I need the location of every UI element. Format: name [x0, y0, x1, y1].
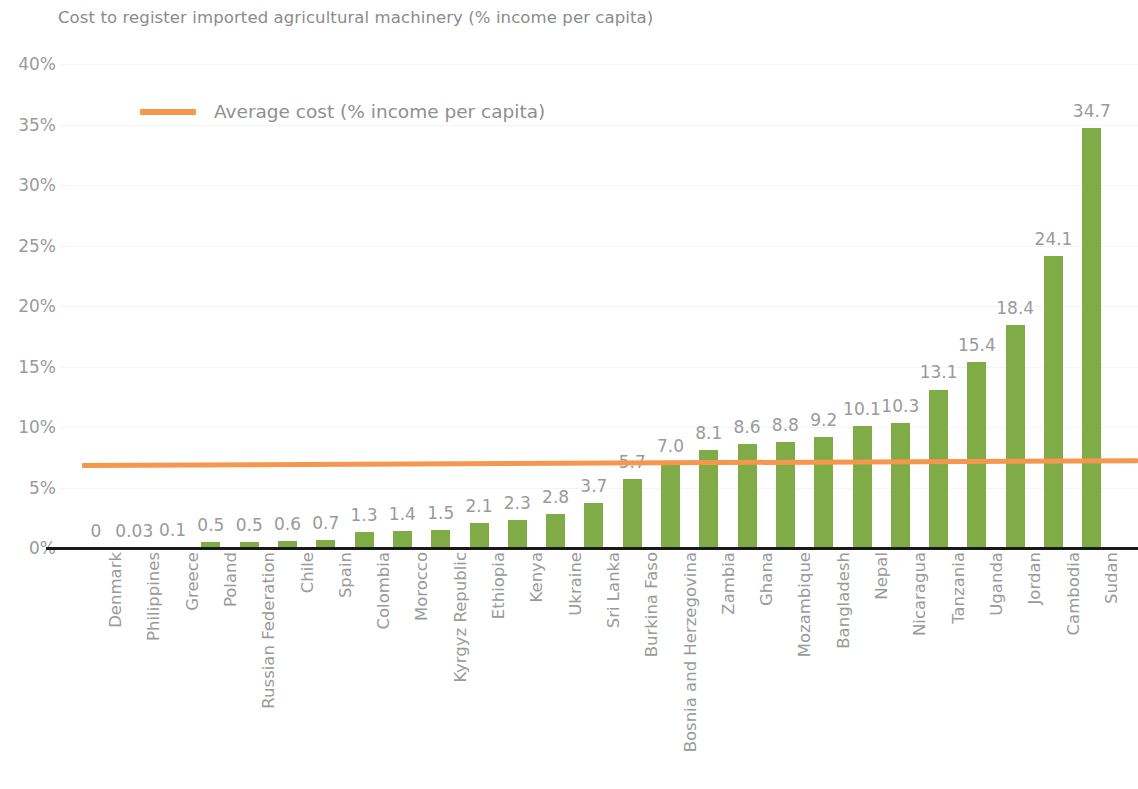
x-axis-category-label[interactable]: Uganda [983, 552, 1000, 616]
x-axis-category-label[interactable]: Jordan [1021, 552, 1038, 605]
bar-value-label: 24.1 [1035, 229, 1073, 249]
chart-legend: Average cost (% income per capita) [140, 101, 545, 122]
bar[interactable] [776, 442, 795, 548]
x-axis-category-label[interactable]: Sri Lanka [600, 552, 617, 628]
x-axis-label-text: Russian Federation [261, 552, 278, 709]
x-axis-label-text: Ghana [759, 552, 776, 606]
bar-value-label: 13.1 [920, 362, 958, 382]
bar-value-label: 2.8 [542, 487, 569, 507]
x-axis-label-text: Cambodia [1066, 552, 1083, 635]
x-axis-category-label[interactable]: Russian Federation [255, 552, 272, 709]
bar-value-label: 0.1 [159, 520, 186, 540]
x-axis-category-label[interactable]: Kyrgyz Republic [447, 552, 464, 683]
bar-value-label: 18.4 [996, 298, 1034, 318]
bar-value-label: 0 [91, 521, 102, 541]
bar[interactable] [853, 426, 872, 548]
x-axis-category-label[interactable]: Colombia [370, 552, 387, 630]
x-axis-label-text: Mozambique [797, 552, 814, 657]
x-axis-category-label[interactable]: Morocco [408, 552, 425, 621]
x-axis-category-label[interactable]: Sudan [1098, 552, 1115, 604]
bar-value-label: 0.5 [197, 515, 224, 535]
legend-item-label: Average cost (% income per capita) [214, 101, 545, 122]
x-axis-label-text: Ethiopia [491, 552, 508, 619]
x-axis-category-label[interactable]: Cambodia [1060, 552, 1077, 635]
bar[interactable] [355, 532, 374, 548]
x-axis-label-text: Denmark [108, 552, 125, 628]
x-axis-label-text: Morocco [414, 552, 431, 621]
x-axis-label-text: Poland [223, 552, 240, 607]
x-axis-label-text: Sudan [1104, 552, 1121, 604]
x-axis-label-text: Chile [300, 552, 317, 593]
bar-value-label: 1.5 [427, 503, 454, 523]
bar[interactable] [967, 362, 986, 548]
x-axis-category-label[interactable]: Philippines [140, 552, 157, 641]
bar[interactable] [1006, 325, 1025, 548]
x-axis-category-label[interactable]: Chile [294, 552, 311, 593]
x-axis-label-text: Kyrgyz Republic [453, 552, 470, 683]
bar[interactable] [470, 523, 489, 548]
x-axis-baseline [46, 547, 1138, 550]
x-axis-label-text: Philippines [146, 552, 163, 641]
average-line-swatch-icon [140, 109, 196, 115]
x-axis-category-labels: DenmarkPhilippinesGreecePolandRussian Fe… [0, 552, 1138, 789]
bar-value-label: 0.7 [312, 513, 339, 533]
bar-value-label: 1.4 [389, 504, 416, 524]
x-axis-label-text: Bangladesh [836, 552, 853, 649]
x-axis-category-label[interactable]: Ghana [753, 552, 770, 606]
bar[interactable] [393, 531, 412, 548]
x-axis-label-text: Spain [338, 552, 355, 598]
bar[interactable] [1044, 256, 1063, 548]
x-axis-category-label[interactable]: Spain [332, 552, 349, 598]
x-axis-label-text: Jordan [1027, 552, 1044, 605]
x-axis-label-text: Sri Lanka [606, 552, 623, 628]
bar-value-label: 2.3 [504, 493, 531, 513]
bar-value-label: 8.8 [772, 415, 799, 435]
bar-value-label: 0.6 [274, 514, 301, 534]
x-axis-label-text: Ukraine [568, 552, 585, 616]
chart-container: Cost to register imported agricultural m… [0, 0, 1138, 789]
x-axis-category-label[interactable]: Nicaragua [906, 552, 923, 636]
x-axis-category-label[interactable]: Greece [179, 552, 196, 611]
x-axis-label-text: Zambia [721, 552, 738, 615]
bar[interactable] [929, 390, 948, 549]
x-axis-category-label[interactable]: Mozambique [791, 552, 808, 657]
x-axis-label-text: Colombia [376, 552, 393, 630]
bar-value-label: 10.3 [881, 396, 919, 416]
bar-value-label: 34.7 [1073, 101, 1111, 121]
x-axis-category-label[interactable]: Kenya [523, 552, 540, 602]
x-axis-label-text: Tanzania [951, 552, 968, 624]
x-axis-category-label[interactable]: Nepal [868, 552, 885, 600]
bar[interactable] [584, 503, 603, 548]
x-axis-category-label[interactable]: Zambia [715, 552, 732, 615]
bar[interactable] [623, 479, 642, 548]
x-axis-label-text: Nicaragua [912, 552, 929, 636]
bar-value-label: 15.4 [958, 335, 996, 355]
x-axis-label-text: Nepal [874, 552, 891, 600]
bar[interactable] [814, 437, 833, 548]
plot-area: 0%5%10%15%20%25%30%35%40% 00.030.10.50.5… [0, 0, 1138, 560]
bar[interactable] [508, 520, 527, 548]
x-axis-category-label[interactable]: Denmark [102, 552, 119, 628]
bar-value-label: 10.1 [843, 399, 881, 419]
x-axis-category-label[interactable]: Bangladesh [830, 552, 847, 649]
bar-value-label: 1.3 [351, 505, 378, 525]
x-axis-label-text: Uganda [989, 552, 1006, 616]
x-axis-category-label[interactable]: Ethiopia [485, 552, 502, 619]
x-axis-category-label[interactable]: Ukraine [562, 552, 579, 616]
x-axis-category-label[interactable]: Bosnia and Herzegovina [677, 552, 694, 752]
bar[interactable] [661, 463, 680, 548]
bar-value-label: 9.2 [810, 410, 837, 430]
bar-value-label: 7.0 [657, 436, 684, 456]
x-axis-category-label[interactable]: Poland [217, 552, 234, 607]
bar[interactable] [1082, 128, 1101, 548]
x-axis-label-text: Burkina Faso [644, 552, 661, 657]
x-axis-label-text: Bosnia and Herzegovina [683, 552, 700, 752]
bar[interactable] [431, 530, 450, 548]
bar-value-label: 2.1 [465, 496, 492, 516]
bar[interactable] [891, 423, 910, 548]
x-axis-category-label[interactable]: Tanzania [945, 552, 962, 624]
bar-value-label: 0.03 [115, 521, 153, 541]
x-axis-category-label[interactable]: Burkina Faso [638, 552, 655, 657]
x-axis-label-text: Kenya [529, 552, 546, 602]
bar[interactable] [546, 514, 565, 548]
